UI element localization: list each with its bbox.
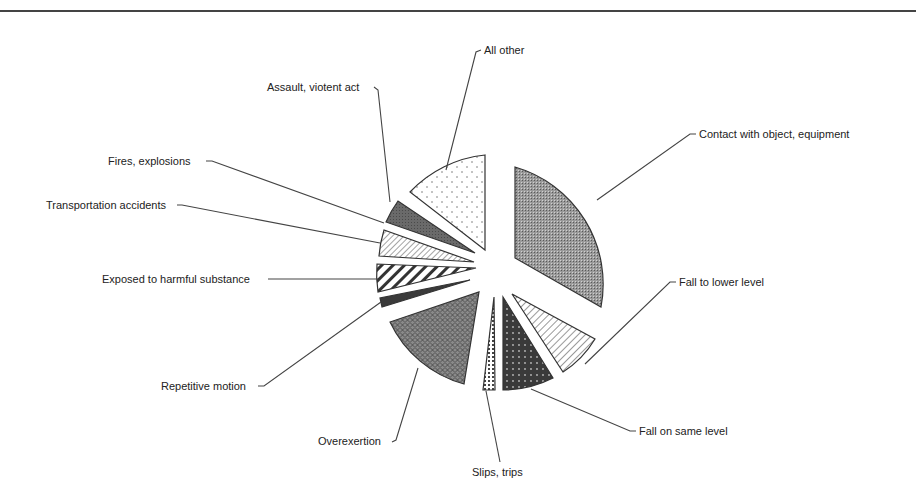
- label-fall-lower: Fall to lower level: [679, 276, 764, 288]
- leader-repetitive: [258, 302, 381, 386]
- leader-overexertion: [392, 368, 418, 442]
- label-fires: Fires, explosions: [108, 155, 191, 167]
- leader-assault: [374, 87, 390, 202]
- label-repetitive: Repetitive motion: [161, 380, 246, 392]
- leader-fires: [206, 161, 384, 223]
- slice-exposed: [377, 264, 476, 292]
- leader-fall-same: [531, 389, 636, 431]
- leader-contact: [597, 134, 696, 200]
- label-fall-same: Fall on same level: [639, 425, 728, 437]
- leader-slips: [486, 391, 500, 462]
- leader-all-other: [446, 50, 481, 170]
- label-all-other: All other: [484, 44, 525, 56]
- slice-contact: [515, 167, 603, 307]
- label-overexertion: Overexertion: [318, 435, 381, 447]
- label-exposed: Exposed to harmful substance: [102, 273, 250, 285]
- pie-chart: Contact with object, equipment Fall to l…: [0, 0, 916, 502]
- label-contact: Contact with object, equipment: [699, 128, 849, 140]
- label-slips: Slips, trips: [472, 466, 523, 478]
- label-assault: Assault, viotent act: [267, 81, 359, 93]
- slice-slips: [483, 297, 495, 390]
- slice-overexertion: [390, 292, 479, 384]
- label-transport: Transportation accidents: [46, 199, 167, 211]
